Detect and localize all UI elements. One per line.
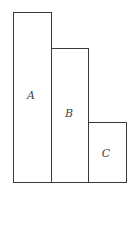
label-b: B (65, 107, 73, 120)
label-c: C (102, 147, 110, 160)
label-a: A (27, 89, 35, 102)
